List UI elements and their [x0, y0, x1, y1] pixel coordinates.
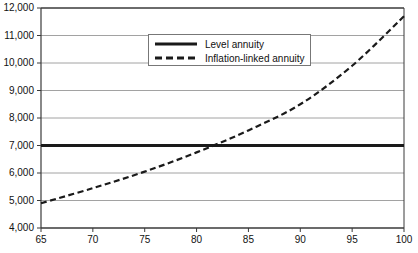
- x-tick-label: 85: [228, 234, 268, 245]
- legend-label-inflation-linked-annuity: Inflation-linked annuity: [205, 53, 305, 64]
- x-tick-label: 65: [21, 234, 61, 245]
- x-tick-label: 100: [384, 234, 418, 245]
- x-tick-label: 70: [73, 234, 113, 245]
- x-tick-label: 90: [280, 234, 320, 245]
- y-tick-label: 11,000: [0, 30, 34, 41]
- chart-legend: Level annuity Inflation-linked annuity: [148, 34, 311, 66]
- legend-label-level-annuity: Level annuity: [205, 39, 264, 50]
- x-tick-label: 75: [125, 234, 165, 245]
- y-tick-label: 10,000: [0, 57, 34, 68]
- y-tick-label: 8,000: [0, 112, 34, 123]
- y-tick-label: 6,000: [0, 167, 34, 178]
- legend-item-inflation-linked-annuity: Inflation-linked annuity: [153, 51, 306, 65]
- y-tick-label: 9,000: [0, 85, 34, 96]
- legend-swatch-dashed-icon: [153, 52, 199, 64]
- y-tick-label: 4,000: [0, 222, 34, 233]
- x-tick-label: 80: [177, 234, 217, 245]
- y-tick-label: 5,000: [0, 195, 34, 206]
- y-tick-label: 12,000: [0, 2, 34, 13]
- chart-container: 4,0005,0006,0007,0008,0009,00010,00011,0…: [0, 0, 418, 253]
- y-tick-label: 7,000: [0, 140, 34, 151]
- legend-swatch-solid-icon: [153, 38, 199, 50]
- legend-item-level-annuity: Level annuity: [153, 37, 306, 51]
- x-tick-label: 95: [332, 234, 372, 245]
